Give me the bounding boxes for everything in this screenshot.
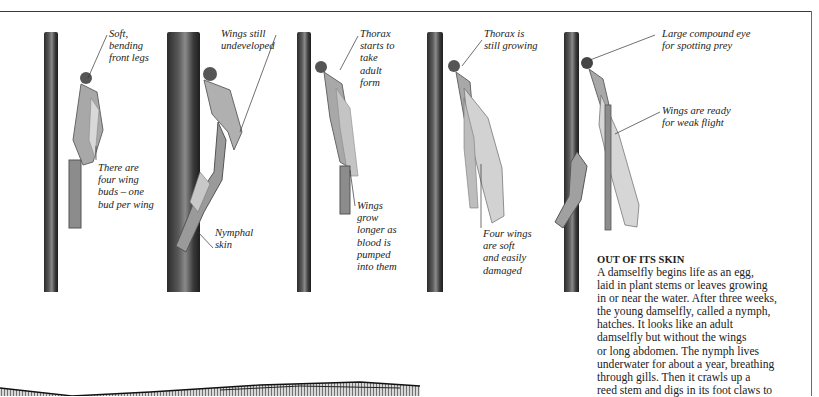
caption-wings-undeveloped: Wings still undeveloped [221, 28, 275, 52]
reed-stem-3 [297, 32, 311, 292]
caption-compound-eye: Large compound eye for spotting prey [662, 28, 750, 52]
sidebar-heading: OUT OF ITS SKIN [597, 254, 815, 266]
caption-four-wing-buds: There are four wing buds – one bud per w… [98, 162, 154, 211]
shed-nymph-skin-illustration [553, 150, 593, 230]
damselfly-stage-4-illustration [444, 58, 524, 233]
caption-four-wings-soft: Four wings are soft and easily damaged [483, 228, 532, 277]
caption-nymphal-skin: Nymphal skin [215, 227, 253, 251]
frame-top-rule [0, 11, 812, 12]
reed-stem-4 [427, 32, 443, 292]
caption-wings-grow-longer: Wings grow longer as blood is pumped int… [357, 200, 397, 273]
caption-thorax-growing: Thorax is still growing [484, 28, 537, 52]
wing-closeup-illustration [0, 378, 420, 396]
caption-wings-ready: Wings are ready for weak flight [662, 105, 731, 129]
caption-soft-front-legs: Soft, bending front legs [109, 28, 149, 65]
caption-thorax-adult-form: Thorax starts to take adult form [360, 28, 394, 89]
sidebar-body: A damselfly begins life as an egg, laid … [597, 266, 815, 397]
sidebar-out-of-its-skin: OUT OF ITS SKIN A damselfly begins life … [597, 254, 815, 397]
